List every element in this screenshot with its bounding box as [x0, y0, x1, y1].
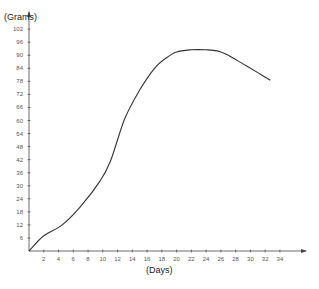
y-tick-label: 24 — [16, 196, 23, 202]
data-line — [29, 50, 270, 251]
x-tick-label: 6 — [72, 256, 76, 262]
y-tick-label: 66 — [16, 104, 23, 110]
x-tick-label: 2 — [42, 256, 46, 262]
y-tick-label: 36 — [16, 170, 23, 176]
y-tick-label: 54 — [16, 131, 23, 137]
x-tick-label: 22 — [188, 256, 195, 262]
x-tick-label: 32 — [262, 256, 269, 262]
y-tick-label: 30 — [16, 183, 23, 189]
x-axis-arrow-icon — [301, 249, 307, 253]
y-tick-label: 48 — [16, 144, 23, 150]
x-tick-label: 24 — [203, 256, 210, 262]
y-tick-label: 42 — [16, 157, 23, 163]
y-tick-label: 72 — [16, 91, 23, 97]
y-tick-label: 12 — [16, 222, 23, 228]
y-tick-label: 60 — [16, 118, 23, 124]
x-axis-title: (Days) — [146, 265, 173, 275]
y-axis-title: (Grams) — [4, 12, 37, 22]
x-tick-label: 12 — [114, 256, 121, 262]
x-tick-label: 26 — [218, 256, 225, 262]
y-tick-label: 18 — [16, 209, 23, 215]
growth-chart: 6121824303642485460667278849096102246810… — [0, 0, 319, 289]
x-tick-label: 34 — [277, 256, 284, 262]
y-tick-label: 102 — [13, 26, 24, 32]
y-tick-label: 96 — [16, 39, 23, 45]
axes — [27, 11, 307, 253]
x-tick-label: 8 — [86, 256, 90, 262]
ticks: 6121824303642485460667278849096102246810… — [13, 26, 284, 262]
y-tick-label: 6 — [20, 235, 24, 241]
x-tick-label: 28 — [232, 256, 239, 262]
x-tick-label: 30 — [247, 256, 254, 262]
x-tick-label: 16 — [144, 256, 151, 262]
x-tick-label: 18 — [158, 256, 165, 262]
y-tick-label: 84 — [16, 65, 23, 71]
y-tick-label: 78 — [16, 78, 23, 84]
x-tick-label: 4 — [57, 256, 61, 262]
x-tick-label: 10 — [99, 256, 106, 262]
x-tick-label: 20 — [173, 256, 180, 262]
y-tick-label: 90 — [16, 52, 23, 58]
x-tick-label: 14 — [129, 256, 136, 262]
